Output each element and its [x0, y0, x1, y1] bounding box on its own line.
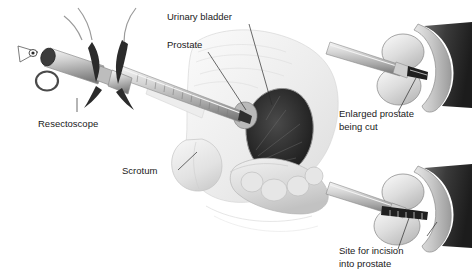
turp-illustration: Resectoscope Urinary bladder Prostate Sc… — [0, 0, 472, 275]
scrotum-structure — [172, 139, 222, 191]
eye-icon — [18, 46, 38, 62]
finger-ring — [36, 72, 58, 91]
incision-site-detail — [326, 164, 472, 252]
label-enlarged-prostate-line1: Enlarged prostate — [339, 108, 414, 119]
label-incision-site-line2: into prostate — [339, 258, 391, 269]
label-scrotum: Scrotum — [122, 165, 157, 176]
label-enlarged-prostate-line2: being cut — [339, 121, 378, 132]
illustration-canvas: Resectoscope Urinary bladder Prostate Sc… — [0, 0, 472, 275]
label-urinary-bladder: Urinary bladder — [167, 11, 232, 22]
enlarged-prostate-detail — [326, 22, 472, 112]
resectoscope-handle — [18, 8, 136, 110]
label-resectoscope: Resectoscope — [38, 118, 98, 129]
instrument-cables — [64, 8, 136, 42]
label-prostate: Prostate — [167, 39, 202, 50]
label-incision-site-line1: Site for incision — [339, 245, 403, 256]
